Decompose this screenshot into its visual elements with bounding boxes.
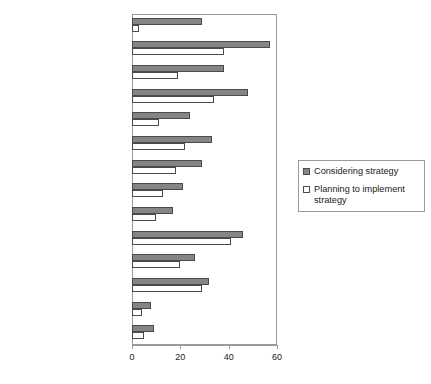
bar-planning xyxy=(132,48,224,55)
x-tick xyxy=(180,345,181,349)
bar-row: Cuts in service levels xyxy=(0,156,278,180)
x-tick xyxy=(229,345,230,349)
x-tick-label: 40 xyxy=(214,352,244,363)
top-caption xyxy=(6,0,426,6)
bar-planning xyxy=(132,309,142,316)
x-tick xyxy=(277,345,278,349)
bar-row: Cut renew al and replacement xyxy=(0,274,278,298)
bar-chart: External softw are developmentConsortia … xyxy=(0,0,431,384)
bar-considering xyxy=(132,278,209,285)
bar-considering xyxy=(132,18,202,25)
bar-planning xyxy=(132,214,156,221)
bar-row: Consortia or shared purchases xyxy=(0,38,278,62)
bar-planning xyxy=(132,285,202,292)
x-tick xyxy=(132,345,133,349)
legend-swatch-planning-icon xyxy=(303,186,310,193)
bar-considering xyxy=(132,183,183,190)
bar-considering xyxy=(132,112,190,119)
bar-row: Outsourcing xyxy=(0,180,278,204)
bar-row: Salary freezes xyxy=(0,109,278,133)
x-tick-label: 60 xyxy=(262,352,292,363)
bar-row: Use open source xyxy=(0,132,278,156)
bar-planning xyxy=(132,119,159,126)
x-tick-label: 0 xyxy=(117,352,147,363)
bar-planning xyxy=(132,238,231,245)
bar-planning xyxy=(132,143,185,150)
legend-label-considering: Considering strategy xyxy=(314,166,398,177)
bar-planning xyxy=(132,96,214,103)
bar-row: External softw are development xyxy=(0,14,278,38)
bar-planning xyxy=(132,72,178,79)
bar-row: Other xyxy=(0,321,278,345)
bar-considering xyxy=(132,325,154,332)
bar-planning xyxy=(132,261,180,268)
x-axis-line xyxy=(132,345,278,346)
bar-considering xyxy=(132,65,224,72)
bar-planning xyxy=(132,167,176,174)
bar-considering xyxy=(132,136,212,143)
bar-considering xyxy=(132,231,243,238)
bar-row: Limit duplicate IT organizations xyxy=(0,250,278,274)
bar-rows-container: External softw are developmentConsortia … xyxy=(0,14,278,345)
bar-considering xyxy=(132,207,173,214)
bar-row: Across-the-board cuts xyxy=(0,227,278,251)
legend-item-considering: Considering strategy xyxy=(303,166,420,177)
bar-considering xyxy=(132,160,202,167)
bar-considering xyxy=(132,41,270,48)
bar-considering xyxy=(132,302,151,309)
bar-row: Layoffs xyxy=(0,203,278,227)
bar-row: Shared technology implementation xyxy=(0,61,278,85)
bar-planning xyxy=(132,332,144,339)
bar-considering xyxy=(132,254,195,261)
bar-planning xyxy=(132,190,163,197)
legend-swatch-considering-icon xyxy=(303,168,310,175)
legend: Considering strategy Planning to impleme… xyxy=(298,160,425,212)
bar-row: Cut benefits xyxy=(0,298,278,322)
x-tick-label: 20 xyxy=(165,352,195,363)
bar-row: Minimize supported technologies xyxy=(0,85,278,109)
bar-planning xyxy=(132,25,139,32)
legend-item-planning: Planning to implement strategy xyxy=(303,184,420,206)
legend-label-planning: Planning to implement strategy xyxy=(314,184,420,206)
bar-considering xyxy=(132,89,248,96)
